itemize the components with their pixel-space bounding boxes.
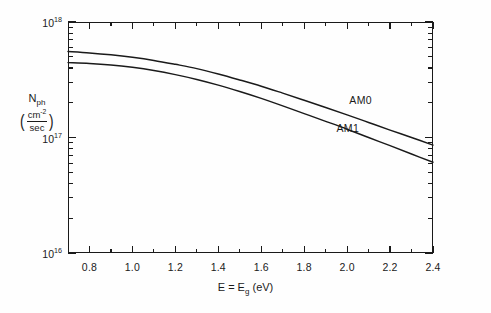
y-minor-tick-right [428,27,433,28]
y-minor-tick-right [428,183,433,184]
paren-close: ) [49,111,54,130]
x-minor-tick-top [325,22,326,26]
x-tick-label: 1.2 [168,261,183,273]
y-minor-tick [68,27,73,28]
y-minor-tick-right [428,47,433,48]
y-minor-tick [68,197,73,198]
x-major-tick-top [347,22,348,29]
y-minor-tick-right [428,172,433,173]
y-minor-tick-right [428,163,433,164]
y-minor-tick-right [428,218,433,219]
y-major-tick-right [425,252,433,253]
x-minor-tick-top [239,22,240,26]
y-axis-symbol: Nph [8,92,66,108]
y-minor-tick [68,33,73,34]
x-minor-tick [411,249,412,253]
x-tick-label: 1.4 [211,261,226,273]
y-minor-tick [68,39,73,40]
y-minor-tick-right [428,39,433,40]
x-minor-tick [110,249,111,253]
y-minor-tick-right [428,155,433,156]
y-minor-tick [68,47,73,48]
x-axis-title: E = Eg (eV) [0,281,491,296]
units-denominator: sec [29,123,46,133]
y-minor-tick [68,82,73,83]
x-minor-tick-top [411,22,412,26]
y-major-tick-right [425,137,433,138]
units-fraction: cm-2 sec [27,108,48,133]
x-minor-tick [368,249,369,253]
x-axis-title-unit: (eV) [252,281,273,293]
y-major-tick [68,21,76,22]
y-major-tick [68,252,76,253]
x-minor-tick [325,249,326,253]
x-major-tick [132,246,133,253]
y-major-tick [68,137,76,138]
y-minor-tick-right [428,33,433,34]
y-minor-tick [68,155,73,156]
x-major-tick [261,246,262,253]
x-axis-title-subscript: g [245,287,249,296]
x-minor-tick [196,249,197,253]
x-major-tick-top [175,22,176,29]
units-numerator-exponent: -2 [40,108,46,115]
x-minor-tick-top [196,22,197,26]
x-tick-label: 2.0 [340,261,355,273]
y-minor-tick [68,56,73,57]
y-minor-tick [68,67,73,68]
y-minor-tick-right [428,148,433,149]
x-major-tick [89,246,90,253]
x-tick-label: 1.6 [254,261,269,273]
units-numerator-text: cm [28,109,41,120]
x-major-tick-top [432,22,433,29]
figure-canvas: 0.81.01.21.41.61.82.02.22.4101610171018 … [0,0,491,313]
x-major-tick-top [389,22,390,29]
x-major-tick-top [218,22,219,29]
x-major-tick-top [89,22,90,29]
x-major-tick [175,246,176,253]
paren-open: ( [20,111,25,130]
y-minor-tick [68,163,73,164]
y-axis-symbol-text: N [29,92,37,104]
x-major-tick [347,246,348,253]
series-label-am1: AM1 [336,122,359,134]
y-minor-tick [68,183,73,184]
y-minor-tick [68,218,73,219]
y-minor-tick-right [428,142,433,143]
units-numerator: cm-2 [27,108,48,120]
x-tick-label: 2.2 [382,261,397,273]
y-minor-tick-right [428,82,433,83]
x-major-tick-top [132,22,133,29]
y-axis-units: ( cm-2 sec ) [19,108,54,133]
x-tick-label: 0.8 [82,261,97,273]
y-minor-tick [68,148,73,149]
x-minor-tick [282,249,283,253]
y-tick-label: 1018 [18,15,62,29]
y-minor-tick-right [428,67,433,68]
x-tick-label: 1.8 [297,261,312,273]
series-label-am0: AM0 [349,94,372,106]
x-minor-tick-top [110,22,111,26]
x-axis-title-lead: E = E [218,281,245,293]
y-minor-tick-right [428,197,433,198]
x-major-tick-top [304,22,305,29]
y-minor-tick-right [428,102,433,103]
x-major-tick [389,246,390,253]
x-tick-label: 2.4 [425,261,440,273]
y-minor-tick-right [428,56,433,57]
x-major-tick [218,246,219,253]
y-minor-tick [68,102,73,103]
x-minor-tick [239,249,240,253]
x-major-tick-top [261,22,262,29]
y-axis-title: Nph ( cm-2 sec ) [8,92,66,133]
y-minor-tick [68,142,73,143]
x-minor-tick-top [368,22,369,26]
y-tick-label: 1016 [18,246,62,260]
plot-frame [68,22,433,253]
x-minor-tick-top [153,22,154,26]
x-tick-label: 1.0 [125,261,140,273]
y-major-tick-right [425,21,433,22]
x-major-tick [304,246,305,253]
x-minor-tick [153,249,154,253]
y-minor-tick [68,172,73,173]
